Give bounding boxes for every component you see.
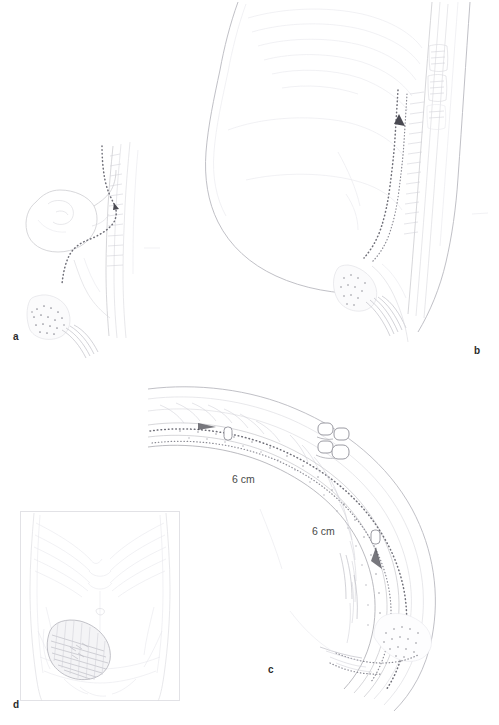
panel-letter-a: a — [13, 332, 19, 342]
panel-b-artwork — [186, 2, 496, 347]
panel-c-linework — [148, 387, 435, 711]
hernia-defect-region — [47, 620, 110, 680]
figure-container: a — [0, 0, 499, 725]
panel-a-linework — [26, 142, 160, 358]
panel-b-sagittal-torso — [186, 2, 496, 347]
suture-clip-cluster — [316, 423, 349, 459]
panel-letter-b: b — [474, 346, 480, 356]
measurement-label-1: 6 cm — [232, 474, 255, 485]
panel-a-sagittal-lower-abdomen — [18, 140, 163, 340]
panel-b-linework — [206, 2, 489, 342]
panel-a-artwork — [18, 140, 163, 340]
panel-letter-d: d — [13, 700, 19, 710]
panel-d-anterior-torso — [20, 511, 180, 701]
measurement-label-2: 6 cm — [312, 526, 335, 537]
panel-d-linework — [30, 513, 170, 701]
suture-loop-lower — [371, 530, 382, 569]
panel-letter-c: c — [268, 665, 274, 675]
panel-d-artwork — [20, 511, 180, 701]
